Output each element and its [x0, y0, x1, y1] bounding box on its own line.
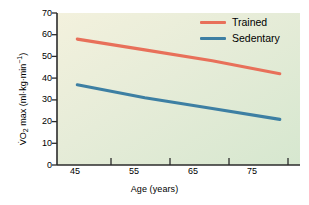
- legend-label-trained: Trained: [232, 16, 267, 28]
- y-axis-title-text: V̇O2 max (ml·kg·min−1): [18, 53, 28, 145]
- y-tick-label: 20: [30, 117, 52, 126]
- x-tick-label: 65: [181, 166, 205, 176]
- y-axis-title-superscript: −1: [16, 56, 23, 64]
- y-tick-label: 50: [30, 52, 52, 61]
- y-axis-title: V̇O2 max (ml·kg·min−1): [12, 34, 26, 164]
- y-tick-label: 10: [30, 139, 52, 148]
- y-tick-label: 40: [30, 74, 52, 83]
- legend-swatch-trained: [200, 21, 226, 24]
- x-tick-label: 55: [122, 166, 146, 176]
- y-axis-title-mid: max (ml·kg·min: [18, 64, 28, 129]
- y-axis-title-prefix: V: [18, 139, 28, 145]
- y-tick-label: 60: [30, 30, 52, 39]
- x-tick-label: 75: [240, 166, 264, 176]
- x-axis-title-text: Age (years): [131, 184, 179, 194]
- chart-legend: Trained Sedentary: [200, 14, 304, 46]
- legend-item-sedentary: Sedentary: [200, 30, 304, 46]
- y-tick-label: 0: [30, 161, 52, 170]
- y-tick-label: 70: [30, 9, 52, 18]
- chart-figure: 70 60 50 40 30 20 10 0 45 55 65 75 Age (…: [0, 0, 309, 205]
- y-axis-title-suffix: ): [18, 53, 28, 56]
- legend-swatch-sedentary: [200, 37, 226, 40]
- y-axis-title-o: O: [18, 132, 28, 139]
- legend-label-sedentary: Sedentary: [232, 32, 280, 44]
- x-tick-label: 45: [63, 166, 87, 176]
- legend-item-trained: Trained: [200, 14, 304, 30]
- x-axis-title: Age (years): [0, 184, 309, 194]
- y-axis-title-subscript: 2: [22, 128, 29, 132]
- y-tick-label: 30: [30, 95, 52, 104]
